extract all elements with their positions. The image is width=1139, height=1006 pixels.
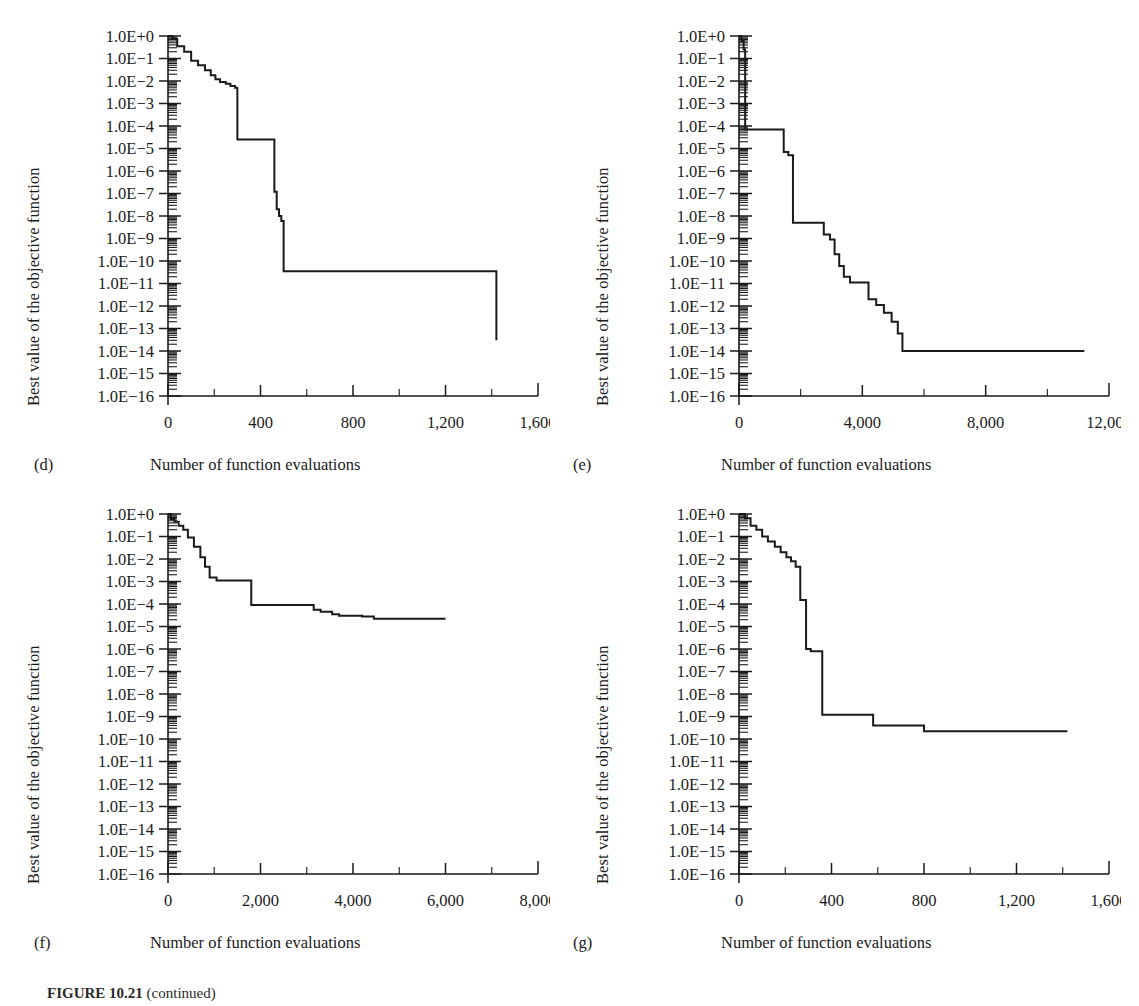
svg-text:1.0E−9: 1.0E−9 bbox=[106, 229, 154, 248]
convergence-chart-d: 1.0E+01.0E−11.0E−21.0E−31.0E−41.0E−51.0E… bbox=[50, 14, 550, 444]
svg-text:1.0E−4: 1.0E−4 bbox=[106, 595, 154, 614]
svg-text:1.0E−8: 1.0E−8 bbox=[677, 207, 725, 226]
plot-area-g: 1.0E+01.0E−11.0E−21.0E−31.0E−41.0E−51.0E… bbox=[621, 492, 1121, 922]
svg-text:400: 400 bbox=[248, 413, 273, 432]
x-axis-title-e: Number of function evaluations bbox=[721, 455, 931, 475]
x-axis-title-g: Number of function evaluations bbox=[721, 933, 931, 953]
panel-tag-g: (g) bbox=[573, 933, 592, 953]
svg-text:1.0E−13: 1.0E−13 bbox=[668, 797, 725, 816]
svg-text:1.0E−2: 1.0E−2 bbox=[106, 72, 154, 91]
svg-text:1.0E−14: 1.0E−14 bbox=[97, 342, 154, 361]
svg-text:1.0E−6: 1.0E−6 bbox=[677, 162, 725, 181]
svg-text:1.0E−13: 1.0E−13 bbox=[97, 797, 154, 816]
svg-text:1.0E−15: 1.0E−15 bbox=[668, 842, 725, 861]
svg-text:1.0E−12: 1.0E−12 bbox=[97, 297, 154, 316]
svg-text:8,000: 8,000 bbox=[519, 891, 550, 910]
svg-text:1.0E−5: 1.0E−5 bbox=[677, 617, 725, 636]
chart-panel-d: Best value of the objective function 1.0… bbox=[0, 0, 569, 490]
svg-text:1.0E−12: 1.0E−12 bbox=[97, 775, 154, 794]
svg-text:1.0E−1: 1.0E−1 bbox=[106, 527, 154, 546]
svg-text:1.0E−4: 1.0E−4 bbox=[106, 117, 154, 136]
figure-caption-text: (continued) bbox=[147, 985, 216, 1001]
svg-text:1,600: 1,600 bbox=[1090, 891, 1121, 910]
svg-text:0: 0 bbox=[164, 891, 172, 910]
svg-text:1.0E−5: 1.0E−5 bbox=[106, 617, 154, 636]
svg-text:1.0E−11: 1.0E−11 bbox=[669, 274, 725, 293]
svg-text:1.0E−11: 1.0E−11 bbox=[98, 752, 154, 771]
svg-text:800: 800 bbox=[341, 413, 366, 432]
svg-text:1.0E−15: 1.0E−15 bbox=[97, 842, 154, 861]
chart-panel-f: Best value of the objective function 1.0… bbox=[0, 490, 569, 968]
svg-text:1.0E−4: 1.0E−4 bbox=[677, 117, 725, 136]
convergence-curve bbox=[168, 36, 496, 340]
plot-area-e: 1.0E+01.0E−11.0E−21.0E−31.0E−41.0E−51.0E… bbox=[621, 14, 1121, 444]
y-axis-title-e: Best value of the objective function bbox=[593, 56, 613, 406]
convergence-curve bbox=[168, 514, 446, 619]
plot-area-d: 1.0E+01.0E−11.0E−21.0E−31.0E−41.0E−51.0E… bbox=[50, 14, 550, 444]
svg-text:1.0E−11: 1.0E−11 bbox=[98, 274, 154, 293]
panel-tag-e: (e) bbox=[573, 455, 591, 475]
svg-text:1.0E−2: 1.0E−2 bbox=[677, 550, 725, 569]
panel-tag-f: (f) bbox=[34, 933, 50, 953]
svg-text:1.0E+0: 1.0E+0 bbox=[677, 505, 725, 524]
chart-panel-e: Best value of the objective function 1.0… bbox=[569, 0, 1139, 490]
svg-text:1.0E−7: 1.0E−7 bbox=[106, 184, 154, 203]
svg-text:4,000: 4,000 bbox=[334, 891, 371, 910]
convergence-chart-e: 1.0E+01.0E−11.0E−21.0E−31.0E−41.0E−51.0E… bbox=[621, 14, 1121, 444]
convergence-chart-f: 1.0E+01.0E−11.0E−21.0E−31.0E−41.0E−51.0E… bbox=[50, 492, 550, 922]
svg-text:12,000: 12,000 bbox=[1086, 413, 1121, 432]
convergence-curve bbox=[739, 514, 1067, 731]
y-axis-title-g: Best value of the objective function bbox=[593, 534, 613, 884]
svg-text:1.0E−1: 1.0E−1 bbox=[677, 49, 725, 68]
svg-text:1.0E−6: 1.0E−6 bbox=[677, 640, 725, 659]
svg-text:1.0E−10: 1.0E−10 bbox=[97, 252, 154, 271]
svg-text:1.0E−14: 1.0E−14 bbox=[668, 342, 725, 361]
figure-caption-label: FIGURE 10.21 bbox=[47, 985, 143, 1001]
svg-text:1.0E−8: 1.0E−8 bbox=[677, 685, 725, 704]
svg-text:1.0E−3: 1.0E−3 bbox=[677, 572, 725, 591]
svg-text:1.0E−12: 1.0E−12 bbox=[668, 775, 725, 794]
chart-panel-g: Best value of the objective function 1.0… bbox=[569, 490, 1139, 968]
svg-text:1.0E−7: 1.0E−7 bbox=[677, 184, 725, 203]
figure-caption: FIGURE 10.21 (continued) bbox=[47, 985, 216, 1002]
svg-text:1.0E−3: 1.0E−3 bbox=[106, 572, 154, 591]
svg-text:0: 0 bbox=[164, 413, 172, 432]
figure-panel-grid: Best value of the objective function 1.0… bbox=[0, 0, 1139, 968]
svg-text:1,200: 1,200 bbox=[427, 413, 464, 432]
svg-text:1.0E−11: 1.0E−11 bbox=[669, 752, 725, 771]
svg-text:1.0E−8: 1.0E−8 bbox=[106, 207, 154, 226]
svg-text:0: 0 bbox=[735, 891, 743, 910]
svg-text:1,200: 1,200 bbox=[998, 891, 1035, 910]
svg-text:1.0E−16: 1.0E−16 bbox=[97, 865, 154, 884]
svg-text:1.0E−13: 1.0E−13 bbox=[668, 319, 725, 338]
svg-text:1.0E−9: 1.0E−9 bbox=[677, 707, 725, 726]
svg-text:1.0E−4: 1.0E−4 bbox=[677, 595, 725, 614]
svg-text:0: 0 bbox=[735, 413, 743, 432]
svg-text:1.0E−9: 1.0E−9 bbox=[106, 707, 154, 726]
svg-text:1.0E−16: 1.0E−16 bbox=[668, 387, 725, 406]
y-axis-title-d: Best value of the objective function bbox=[24, 56, 44, 406]
svg-text:1.0E−14: 1.0E−14 bbox=[97, 820, 154, 839]
convergence-curve bbox=[739, 36, 1084, 351]
svg-text:1.0E−16: 1.0E−16 bbox=[668, 865, 725, 884]
svg-text:1.0E−10: 1.0E−10 bbox=[97, 730, 154, 749]
convergence-chart-g: 1.0E+01.0E−11.0E−21.0E−31.0E−41.0E−51.0E… bbox=[621, 492, 1121, 922]
svg-text:6,000: 6,000 bbox=[427, 891, 464, 910]
svg-text:8,000: 8,000 bbox=[967, 413, 1004, 432]
panel-tag-d: (d) bbox=[34, 455, 53, 475]
svg-text:400: 400 bbox=[819, 891, 844, 910]
svg-text:1.0E−7: 1.0E−7 bbox=[677, 662, 725, 681]
svg-text:1.0E−10: 1.0E−10 bbox=[668, 252, 725, 271]
svg-text:1.0E−5: 1.0E−5 bbox=[677, 139, 725, 158]
svg-text:1.0E−8: 1.0E−8 bbox=[106, 685, 154, 704]
svg-text:1.0E−7: 1.0E−7 bbox=[106, 662, 154, 681]
svg-text:1.0E+0: 1.0E+0 bbox=[677, 27, 725, 46]
svg-text:1.0E−6: 1.0E−6 bbox=[106, 640, 154, 659]
svg-text:1.0E−3: 1.0E−3 bbox=[677, 94, 725, 113]
svg-text:1.0E−1: 1.0E−1 bbox=[106, 49, 154, 68]
x-axis-title-f: Number of function evaluations bbox=[150, 933, 360, 953]
svg-text:1.0E−9: 1.0E−9 bbox=[677, 229, 725, 248]
svg-text:1.0E−15: 1.0E−15 bbox=[668, 364, 725, 383]
svg-text:800: 800 bbox=[912, 891, 937, 910]
x-axis-title-d: Number of function evaluations bbox=[150, 455, 360, 475]
